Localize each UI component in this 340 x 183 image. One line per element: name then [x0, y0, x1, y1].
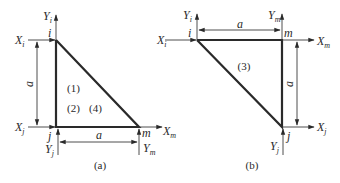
dimension-label-horizontal-b: a	[237, 17, 243, 31]
node-i-b: i	[188, 26, 191, 40]
dimension-label-vertical-b: a	[282, 81, 296, 87]
panel-a: Yi Xi i a Xj j Yj m Ym Xm a (1) (2) (4) …	[14, 9, 176, 172]
node-m-b: m	[284, 26, 293, 40]
element-label-2: (2)	[67, 102, 80, 115]
label-xm-a: Xm	[162, 124, 176, 140]
label-xj-b: Xj	[316, 120, 327, 136]
node-i-a: i	[48, 26, 51, 40]
caption-b: (b)	[246, 159, 259, 172]
element-label-4: (4)	[89, 102, 102, 115]
label-xj-a: Xj	[14, 120, 25, 136]
label-yi-b: Yi	[183, 8, 192, 24]
label-xi-b: Xi	[156, 33, 167, 49]
label-yi-a: Yi	[43, 9, 52, 25]
node-j-a: j	[46, 129, 52, 143]
label-yj-a: Yj	[45, 142, 55, 158]
node-m-a: m	[142, 126, 151, 140]
label-xi-a: Xi	[14, 33, 25, 49]
label-ym-b: Ym	[268, 8, 281, 24]
triangle-b	[197, 40, 282, 127]
triangular-element-figure: Yi Xi i a Xj j Yj m Ym Xm a (1) (2) (4) …	[0, 0, 340, 183]
dimension-label-vertical-a: a	[22, 81, 36, 87]
label-yj-b: Yj	[270, 139, 280, 155]
caption-a: (a)	[94, 159, 107, 172]
label-ym-a: Ym	[143, 141, 156, 157]
panel-b: Yi Xi i a Ym m Xm a Xj j Yj (3) (b)	[156, 8, 330, 172]
element-label-1: (1)	[67, 82, 80, 95]
node-j-b: j	[285, 129, 291, 143]
element-label-3: (3)	[238, 60, 251, 73]
dimension-label-horizontal-a: a	[96, 128, 102, 142]
label-xm-b: Xm	[316, 34, 330, 50]
